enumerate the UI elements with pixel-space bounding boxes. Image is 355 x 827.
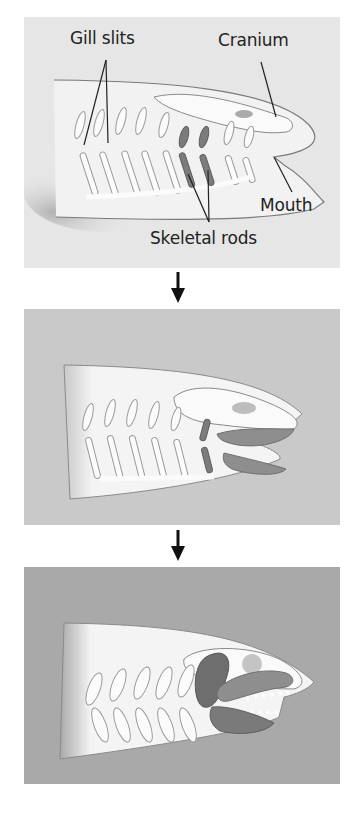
down-arrow-icon <box>171 530 185 562</box>
hinged-jaw-illustration <box>24 567 340 784</box>
early-jaw-illustration <box>24 309 340 525</box>
label-skeletal-rods: Skeletal rods <box>150 228 257 248</box>
label-mouth: Mouth <box>260 195 312 215</box>
label-gill-slits: Gill slits <box>70 28 135 48</box>
stage-1-panel: Gill slits Cranium Mouth Skeletal rods <box>24 17 340 268</box>
stage-2-panel <box>24 309 340 525</box>
label-cranium: Cranium <box>218 30 289 50</box>
down-arrow-icon <box>171 272 185 304</box>
stage-3-panel <box>24 567 340 784</box>
